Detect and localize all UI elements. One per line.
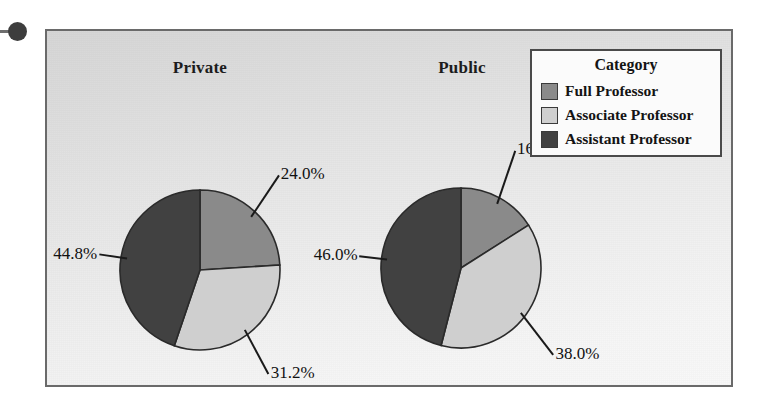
pie-slices-public [381, 188, 541, 348]
pie-slices-private [120, 190, 280, 350]
pie-chart-private [118, 188, 282, 352]
legend-item: Full Professor [541, 79, 717, 103]
legend-item-label: Full Professor [565, 83, 658, 99]
legend-item: Associate Professor [541, 103, 717, 127]
slice-label-private-full-professor: 24.0% [281, 164, 325, 184]
legend-swatch [541, 131, 558, 148]
slice-label-public-assistant-professor: 46.0% [314, 245, 358, 265]
scan-artifact-dot [8, 22, 27, 41]
slice-label-public-associate-professor: 38.0% [556, 344, 600, 364]
slice-label-private-associate-professor: 31.2% [271, 363, 315, 383]
pie-slice [200, 190, 280, 270]
legend-item: Assistant Professor [541, 127, 717, 151]
legend-item-label: Associate Professor [565, 107, 693, 123]
legend-swatch [541, 107, 558, 124]
legend-swatch [541, 83, 558, 100]
legend-item-list: Full ProfessorAssociate ProfessorAssista… [541, 79, 717, 151]
pie-chart-public [379, 186, 543, 350]
legend-title: Category [532, 56, 720, 74]
legend-item-label: Assistant Professor [565, 131, 692, 147]
panel-title-private: Private [118, 58, 282, 78]
slice-label-private-assistant-professor: 44.8% [53, 244, 97, 264]
figure-root: Private Public 24.0% 31.2% 44.8% 16.0% 3… [0, 0, 770, 413]
legend: Category Full ProfessorAssociate Profess… [530, 49, 722, 157]
panel-title-public: Public [380, 58, 544, 78]
